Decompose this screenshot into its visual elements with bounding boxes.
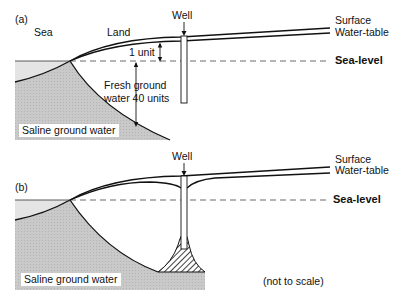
- one-unit-label: 1 unit: [129, 46, 155, 58]
- surface-label-a: Surface: [335, 14, 371, 26]
- well-label-b: Well: [172, 150, 192, 162]
- saline-label-a: Saline ground water: [22, 124, 116, 136]
- sea-level-label-a: Sea-level: [335, 54, 383, 66]
- forty-units-arrowhead-top: [134, 62, 138, 67]
- not-to-scale-note: (not to scale): [263, 275, 324, 287]
- ghyben-herzberg-diagram: (a) Sea Land Well Surface Water-table Se…: [0, 0, 405, 298]
- well-shaft-b: [181, 176, 187, 249]
- sea-label: Sea: [34, 26, 53, 38]
- water-table-label-b: Water-table: [335, 164, 389, 176]
- water-table-line-b: [70, 173, 330, 200]
- water-table-label-a: Water-table: [335, 26, 389, 38]
- well-label-a: Well: [172, 9, 192, 21]
- sea-level-label-b: Sea-level: [333, 193, 381, 205]
- panel-a: (a) Sea Land Well Surface Water-table Se…: [15, 9, 389, 140]
- well-arrowhead: [182, 31, 187, 36]
- fresh-water-label-line2: water 40 units: [103, 92, 169, 104]
- panel-b: Well (b) Surface Water-table Sea-level S…: [15, 150, 389, 290]
- fresh-water-label-line1: Fresh ground: [104, 79, 167, 91]
- panel-b-tag: (b): [15, 181, 28, 193]
- land-label: Land: [107, 26, 131, 38]
- ground-surface-line-b: [70, 167, 330, 200]
- panel-a-tag: (a): [15, 13, 28, 25]
- saline-label-b: Saline ground water: [24, 273, 118, 285]
- one-unit-arrowhead-top: [158, 43, 162, 48]
- well-shaft: [181, 36, 187, 103]
